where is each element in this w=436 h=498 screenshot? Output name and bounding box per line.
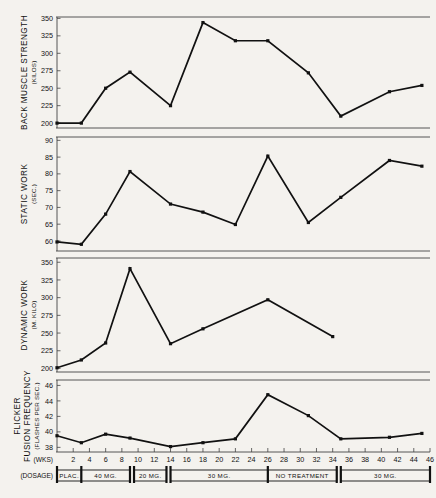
x-tick-label: 30 (296, 455, 304, 464)
x-tick-label: 46 (426, 455, 434, 464)
data-point-marker (307, 221, 310, 224)
figure-container: 200225250275300325350BACK MUSCLE STRENGT… (0, 0, 436, 498)
data-point-marker (234, 223, 237, 226)
y-tick-label: 90 (45, 136, 53, 145)
x-tick-label: 20 (215, 455, 223, 464)
x-tick-label: 32 (312, 455, 320, 464)
data-point-marker (201, 441, 204, 444)
data-point-marker (169, 202, 172, 205)
y-tick-label: 38 (45, 443, 53, 452)
data-point-marker (128, 170, 131, 173)
y-tick-label: 300 (41, 49, 53, 58)
data-point-marker (388, 90, 391, 93)
y-tick-label: 350 (41, 258, 53, 267)
x-tick-label: 38 (361, 455, 369, 464)
y-tick-label: 75 (45, 186, 53, 195)
y-tick-label: 325 (41, 276, 53, 285)
y-tick-label: 225 (41, 101, 53, 110)
y-tick-label: 46 (45, 381, 53, 390)
x-tick-label: 22 (231, 455, 239, 464)
dosage-segment-label: 40 MG. (94, 472, 117, 479)
y-tick-label: 200 (41, 119, 53, 128)
data-point-marker (266, 298, 269, 301)
y-tick-label: 300 (41, 293, 53, 302)
data-point-marker (55, 434, 58, 437)
y-axis-units: (KILOS) (30, 60, 37, 84)
x-tick-label: 28 (280, 455, 288, 464)
x-tick-label: 2 (71, 455, 75, 464)
data-point-marker (266, 39, 269, 42)
x-tick-label: 40 (377, 455, 385, 464)
y-tick-label: 85 (45, 153, 53, 162)
data-point-marker (201, 21, 204, 24)
x-tick-label: 12 (150, 455, 158, 464)
data-point-marker (201, 327, 204, 330)
data-point-marker (169, 445, 172, 448)
data-point-marker (169, 104, 172, 107)
data-point-marker (80, 441, 83, 444)
data-point-marker (339, 196, 342, 199)
data-point-marker (169, 342, 172, 345)
x-tick-label: 42 (394, 455, 402, 464)
dosage-segment-label: 30 MG. (374, 472, 397, 479)
y-axis-title: BACK MUSCLE STRENGTH (20, 15, 29, 130)
x-tick-label: 8 (120, 455, 124, 464)
dosage-segment-label: NO TREATMENT (276, 472, 329, 479)
y-tick-label: 275 (41, 311, 53, 320)
y-tick-label: 350 (41, 14, 53, 23)
data-point-marker (339, 115, 342, 118)
data-point-marker (388, 159, 391, 162)
y-axis-title-line1: FLICKER (13, 397, 22, 435)
data-point-marker (339, 437, 342, 440)
data-point-marker (234, 437, 237, 440)
data-point-marker (266, 393, 269, 396)
data-point-marker (307, 71, 310, 74)
data-point-marker (307, 414, 310, 417)
data-point-marker (420, 432, 423, 435)
data-point-marker (104, 341, 107, 344)
data-point-marker (128, 71, 131, 74)
data-point-marker (55, 366, 58, 369)
data-point-marker (331, 335, 334, 338)
data-point-marker (80, 243, 83, 246)
y-tick-label: 200 (41, 364, 53, 373)
data-point-marker (104, 213, 107, 216)
x-tick-label: 4 (87, 455, 91, 464)
x-tick-label: 18 (199, 455, 207, 464)
y-tick-label: 44 (45, 397, 53, 406)
x-tick-label: 26 (264, 455, 272, 464)
data-point-marker (128, 436, 131, 439)
dosage-caption: (DOSAGE) (20, 472, 53, 480)
y-tick-label: 250 (41, 329, 53, 338)
dosage-segment-label: 30 MG. (208, 472, 231, 479)
data-point-marker (420, 84, 423, 87)
data-point-marker (55, 240, 58, 243)
y-axis-title: FUSION FREQUENCY (23, 370, 32, 462)
data-point-marker (234, 39, 237, 42)
y-tick-label: 275 (41, 66, 53, 75)
y-tick-label: 325 (41, 31, 53, 40)
x-tick-label: 10 (134, 455, 142, 464)
y-tick-label: 80 (45, 169, 53, 178)
y-tick-label: 225 (41, 346, 53, 355)
y-tick-label: 42 (45, 412, 53, 421)
y-axis-units: (M. KILO) (30, 300, 37, 329)
figure-background (0, 0, 436, 498)
x-tick-label: 6 (104, 455, 108, 464)
dosage-segment-label: 20 MG. (139, 472, 162, 479)
y-tick-label: 65 (45, 220, 53, 229)
data-point-marker (420, 165, 423, 168)
y-tick-label: 250 (41, 84, 53, 93)
data-point-marker (80, 358, 83, 361)
data-point-marker (104, 433, 107, 436)
y-axis-title: DYNAMIC WORK (20, 279, 29, 350)
x-tick-label: 14 (167, 455, 175, 464)
data-point-marker (128, 267, 131, 270)
x-tick-label: 34 (329, 455, 337, 464)
data-point-marker (388, 436, 391, 439)
x-tick-label: 36 (345, 455, 353, 464)
y-axis-units: (SEC.) (30, 184, 37, 204)
data-point-marker (55, 122, 58, 125)
data-point-marker (104, 87, 107, 90)
y-tick-label: 60 (45, 237, 53, 246)
